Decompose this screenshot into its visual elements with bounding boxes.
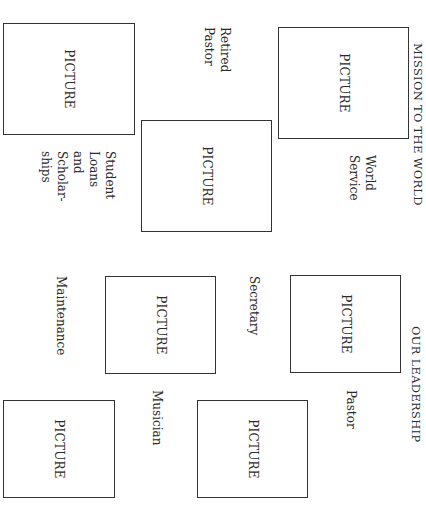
maintenance-caption: Maintenance xyxy=(53,276,69,355)
picture-placeholder-label: PICTURE xyxy=(339,294,353,353)
caption-line: Retired xyxy=(218,27,232,72)
pastor-picture: PICTURE xyxy=(290,275,401,373)
student-loans-picture: PICTURE xyxy=(3,23,135,135)
secretary-picture: PICTURE xyxy=(105,276,216,374)
caption-line: Loans xyxy=(87,151,101,187)
picture-placeholder-label: PICTURE xyxy=(52,419,66,478)
picture-placeholder-label: PICTURE xyxy=(246,419,260,478)
leadership-heading: OUR LEADERSHIP xyxy=(409,326,423,442)
retired-pastor-picture: PICTURE xyxy=(141,120,272,232)
caption-line: Scholar- xyxy=(55,151,69,202)
caption-line: Pastor xyxy=(202,27,216,66)
picture-placeholder-label: PICTURE xyxy=(62,49,76,108)
student-loans-caption: Student Loans and Scholar- ships xyxy=(38,151,118,202)
retired-pastor-caption: Retired Pastor xyxy=(201,27,233,72)
caption-line: World xyxy=(363,155,377,191)
mission-heading: MISSION TO THE WORLD xyxy=(411,43,425,206)
picture-placeholder-label: PICTURE xyxy=(200,146,214,205)
musician-picture: PICTURE xyxy=(197,400,308,498)
world-service-picture: PICTURE xyxy=(278,27,409,139)
caption-line: Student xyxy=(103,151,117,199)
maintenance-picture: PICTURE xyxy=(3,400,115,498)
secretary-caption: Secretary xyxy=(246,276,262,335)
caption-line: Service xyxy=(347,155,361,201)
pastor-caption: Pastor xyxy=(343,390,359,429)
world-service-caption: World Service xyxy=(346,155,378,201)
caption-line: and xyxy=(71,151,85,174)
caption-line: ships xyxy=(39,151,53,183)
picture-placeholder-label: PICTURE xyxy=(337,53,351,112)
musician-caption: Musician xyxy=(149,390,165,445)
picture-placeholder-label: PICTURE xyxy=(154,295,168,354)
